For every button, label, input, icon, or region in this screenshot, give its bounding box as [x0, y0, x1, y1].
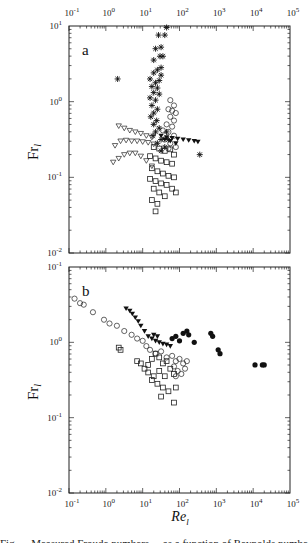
panel-a-frame [69, 26, 290, 253]
tick-label: 105 [287, 6, 300, 18]
x-axis-title: Rel [170, 509, 189, 527]
panel-b-frame [69, 267, 290, 493]
tick-label: 10-1 [47, 260, 62, 272]
tick-label: 10-1 [47, 411, 62, 423]
panel-a-data-points [111, 25, 203, 214]
panel-b-y-axis-title: Frl [25, 384, 43, 400]
tick-label: 10-1 [47, 170, 62, 182]
svg-text:Frl: Frl [25, 384, 43, 400]
tick-label: 104 [250, 6, 263, 18]
panel-a: 10-110010110210310410510110010-110-2 a [47, 6, 300, 258]
tick-label: 105 [287, 497, 300, 509]
tick-label: 102 [176, 6, 189, 18]
tick-label: 100 [50, 95, 63, 107]
panel-b: 10-110010110210310410510-110010-110-2 b [47, 260, 300, 509]
panel-a-ticks [69, 26, 290, 253]
panel-b-label: b [82, 283, 90, 299]
tick-label: 102 [176, 497, 189, 509]
panel-b-data-points [72, 296, 267, 405]
tick-label: 10-2 [47, 486, 62, 498]
figure: 10-110010110210310410510110010-110-2 a 1… [0, 0, 308, 543]
tick-label: 101 [50, 19, 63, 31]
tick-label: 101 [139, 497, 152, 509]
tick-label: 103 [213, 497, 226, 509]
tick-label: 10-1 [65, 497, 80, 509]
tick-label: 103 [213, 6, 226, 18]
tick-label: 100 [50, 335, 63, 347]
figure-caption-clipped: Fig. ... Measured Froude numbers ... as … [0, 536, 308, 543]
panel-b-ticks [69, 267, 290, 493]
tick-label: 101 [139, 6, 152, 18]
tick-label: 100 [103, 6, 116, 18]
tick-label: 100 [103, 497, 116, 509]
tick-label: 104 [250, 497, 263, 509]
tick-label: 10-2 [47, 246, 62, 258]
panel-a-y-axis-title: Frl [25, 144, 43, 160]
panel-a-label: a [82, 42, 89, 58]
tick-label: 10-1 [65, 6, 80, 18]
svg-text:Frl: Frl [25, 144, 43, 160]
